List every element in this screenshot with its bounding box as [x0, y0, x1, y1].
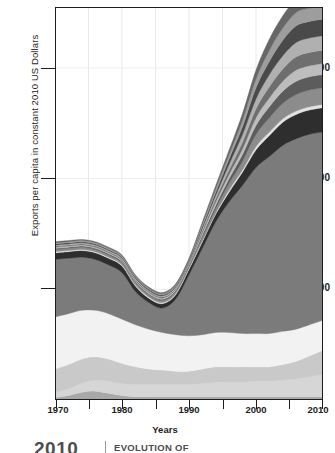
x-tick-label-2000: 2000	[236, 404, 276, 415]
y-tick-mark-300	[41, 68, 55, 69]
x-tick-mark-1975	[89, 400, 90, 409]
plot-area	[55, 7, 323, 400]
x-tick-label-2010: 2010	[298, 404, 335, 415]
y-tick-mark-100	[41, 288, 55, 289]
footer-title: EVOLUTION OF	[114, 442, 189, 453]
x-tick-mark-2005	[289, 400, 290, 409]
x-tick-mark-1995	[223, 400, 224, 409]
footer-divider	[105, 441, 106, 453]
footer-band: 2010 EVOLUTION OF	[0, 440, 330, 453]
y-axis-title: Exports per capita in constant 2010 US D…	[29, 6, 40, 266]
x-tick-mark-1985	[156, 400, 157, 409]
x-axis-title: Years	[0, 424, 330, 435]
footer-year: 2010	[34, 440, 78, 453]
x-tick-label-1990: 1990	[169, 404, 209, 415]
stacked-area-chart	[55, 7, 323, 400]
x-tick-label-1980: 1980	[102, 404, 142, 415]
x-tick-label-1970: 1970	[38, 404, 78, 415]
y-tick-mark-200	[41, 178, 55, 179]
